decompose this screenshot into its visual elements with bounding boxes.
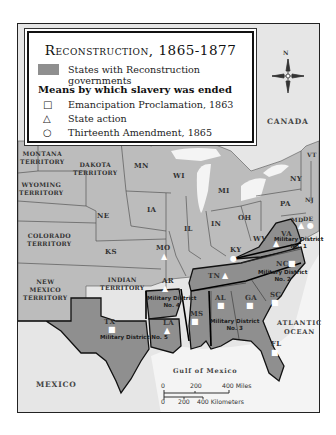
label-nj: NJ [305,196,314,204]
label-district-4: Military District No. 4 [147,295,196,309]
square-icon: ■ [288,260,296,268]
label-vt: VT [307,151,317,159]
triangle-icon: ▲ [161,253,167,261]
label-district-1: Military District No. 1 [274,236,323,250]
legend-item-emancipation: Emancipation Proclamation, 1863 [68,99,233,110]
square-icon: ■ [271,349,279,357]
map-legend: Reconstruction, 1865-1877 States with Re… [27,31,254,143]
swatch-label: States with Reconstruction governments [68,64,252,86]
label-ne: NE [97,212,109,220]
label-district-3: Military District No. 3 [210,318,259,332]
triangle-icon: ▲ [222,272,228,280]
circle-icon: ● [307,222,314,230]
square-icon: ■ [246,302,254,310]
label-fl: FL [271,340,282,348]
label-nc: NC [276,260,289,268]
label-wi: WI [173,172,185,180]
label-pa: PA [280,200,291,208]
triangle-icon: ▲ [164,327,170,335]
triangle-icon: △ [43,113,51,124]
scale-miles-0: 0 [161,382,165,389]
label-il: IL [184,225,193,233]
label-in: IN [211,220,221,228]
label-mexico: MEXICO [36,380,77,389]
label-gulf: Gulf of Mexico [173,367,237,376]
label-tn: TN [208,272,220,280]
scale-km-0: 0 [161,398,165,405]
compass-north: N [283,49,289,57]
scale-km-200: 200 [178,398,190,405]
triangle-icon: ▲ [273,240,279,248]
label-indian: INDIAN TERRITORY [100,276,145,292]
label-ky: KY [230,246,242,254]
label-wv: WV [253,235,267,243]
label-canada: CANADA [267,117,309,126]
square-icon: ■ [217,302,225,310]
label-mn: MN [134,162,149,170]
legend-item-state-action: State action [68,113,127,124]
scale-km-400: 400 Kilometers [197,398,244,405]
square-icon: ■ [108,326,116,334]
legend-item-thirteenth: Thirteenth Amendment, 1865 [68,127,212,138]
label-wyoming: WYOMING TERRITORY [19,181,64,197]
legend-subtitle: Means by which slavery was ended [38,84,232,95]
label-dakota: DAKOTA TERRITORY [73,161,118,177]
label-district-5: Military District No. 5 [100,334,168,341]
label-atlantic: ATLANTIC OCEAN [277,319,322,337]
label-district-2: Military District No. 2 [258,269,307,283]
label-ny: NY [290,175,302,183]
reconstruction-swatch [38,64,59,75]
circle-icon: ● [230,255,237,263]
label-new-mexico: NEW MEXICO TERRITORY [23,278,68,302]
square-icon: ■ [191,318,199,326]
label-oh: OH [238,214,251,222]
square-icon: □ [43,99,52,110]
label-colorado: COLORADO TERRITORY [27,232,72,248]
scale-miles-200: 200 [190,382,202,389]
scale-miles-400: 400 Miles [222,382,252,389]
triangle-icon: ▲ [298,222,304,230]
triangle-icon: ▲ [162,285,168,293]
label-ks: KS [105,248,117,256]
label-mo: MO [156,244,170,252]
square-icon: ■ [271,299,279,307]
label-ia: IA [147,206,156,214]
circle-icon: ○ [43,127,52,138]
legend-title: Reconstruction, 1865-1877 [29,42,252,58]
label-mi: MI [218,187,230,195]
label-montana: MONTANA TERRITORY [20,150,65,166]
